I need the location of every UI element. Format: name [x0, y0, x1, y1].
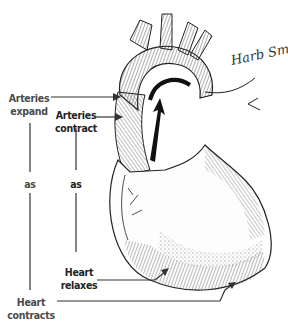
signature: Harb Sms: [229, 40, 288, 69]
label-line: as: [66, 178, 86, 191]
label-line: as: [20, 178, 40, 191]
label-line: contract: [53, 122, 99, 135]
label-line: Heart: [6, 296, 56, 309]
label-line: Arteries: [6, 92, 52, 105]
label-line: expand: [6, 105, 52, 118]
label-as-right: as: [66, 178, 86, 191]
heart-diagram: Harb Sms Arteries expand Arteries contra…: [0, 0, 288, 336]
label-heart-contracts: Heart contracts: [6, 296, 56, 322]
label-as-left: as: [20, 178, 40, 191]
label-line: Heart: [60, 266, 98, 279]
flow-arrow: [150, 98, 165, 162]
label-arteries-expand: Arteries expand: [6, 92, 52, 118]
label-line: relaxes: [60, 279, 98, 292]
label-line: Arteries: [53, 109, 99, 122]
label-heart-relaxes: Heart relaxes: [60, 266, 98, 292]
heart-illustration: Harb Sms: [0, 0, 288, 336]
label-arteries-contract: Arteries contract: [53, 109, 99, 135]
label-line: contracts: [6, 309, 56, 322]
